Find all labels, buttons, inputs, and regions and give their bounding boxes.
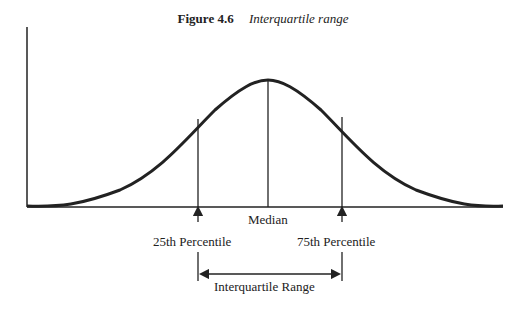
iqr-diagram xyxy=(0,0,526,310)
q3-label: 75th Percentile xyxy=(297,234,375,250)
q1-label: 25th Percentile xyxy=(153,234,231,250)
distribution-curve xyxy=(27,80,503,206)
iqr-label: Interquartile Range xyxy=(214,279,315,295)
median-label: Median xyxy=(248,212,288,228)
